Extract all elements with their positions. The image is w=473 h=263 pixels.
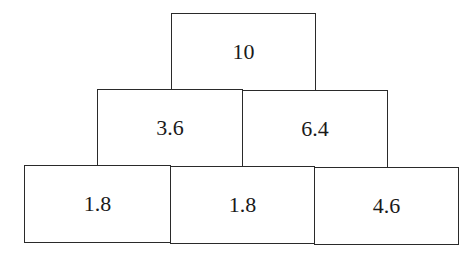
pyramid-bottom-right-cell: 4.6 [314, 167, 459, 245]
cell-value: 6.4 [301, 116, 329, 142]
cell-value: 4.6 [373, 193, 401, 219]
cell-value: 1.8 [84, 191, 112, 217]
pyramid-middle-left-cell: 3.6 [97, 89, 243, 167]
pyramid-top-cell: 10 [171, 13, 316, 91]
pyramid-middle-right-cell: 6.4 [242, 90, 388, 168]
cell-value: 1.8 [229, 192, 257, 218]
pyramid-bottom-middle-cell: 1.8 [170, 166, 315, 244]
cell-value: 3.6 [156, 115, 184, 141]
cell-value: 10 [233, 39, 255, 65]
pyramid-bottom-left-cell: 1.8 [24, 165, 171, 243]
